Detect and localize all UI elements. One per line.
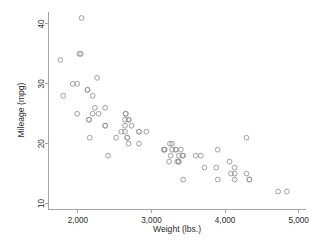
x-tick-group: 2,0003,0004,0005,000 bbox=[68, 210, 310, 225]
y-axis: 10203040 Mileage (mpg) bbox=[16, 12, 49, 210]
x-tick-label: 2,000 bbox=[68, 216, 89, 225]
x-axis: 2,0003,0004,0005,000 Weight (lbs.) bbox=[48, 210, 309, 235]
plot-canvas: 10203040 Mileage (mpg) 2,0003,0004,0005,… bbox=[0, 0, 321, 249]
plot-area bbox=[48, 12, 306, 209]
y-tick-label: 40 bbox=[37, 19, 46, 29]
x-tick-label: 5,000 bbox=[288, 216, 309, 225]
plot-background bbox=[48, 12, 306, 209]
y-tick-label: 20 bbox=[37, 139, 46, 149]
y-tick-group: 10203040 bbox=[37, 19, 49, 208]
x-tick-label: 4,000 bbox=[215, 216, 236, 225]
y-axis-title: Mileage (mpg) bbox=[16, 82, 26, 137]
y-tick-label: 30 bbox=[37, 79, 46, 89]
x-axis-title: Weight (lbs.) bbox=[153, 224, 201, 234]
scatter-plot-figure: 10203040 Mileage (mpg) 2,0003,0004,0005,… bbox=[0, 0, 321, 249]
y-tick-label: 10 bbox=[37, 199, 46, 209]
